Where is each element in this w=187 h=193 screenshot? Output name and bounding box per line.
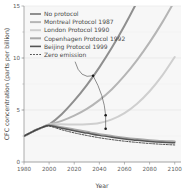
y-tick-label-5: 5 (16, 107, 20, 113)
x-axis-title: Year (94, 182, 109, 189)
legend-label-no-protocol: No protocol (44, 10, 79, 18)
cfc-concentration-line-chart: 1980200020202040206020802100051015 Year … (0, 0, 187, 193)
x-tick-label-1980: 1980 (17, 166, 32, 172)
x-tick-label-2080: 2080 (142, 166, 157, 172)
legend-label-copenhagen-protocol-1992: Copenhagen Protocol 1992 (44, 35, 125, 43)
legend-label-zero-emission: Zero emission (44, 51, 87, 58)
annotation-dot-3 (104, 127, 107, 130)
annotation-dot-2 (104, 114, 107, 117)
y-axis-title: CFC concentration (parts per billion) (3, 28, 11, 140)
x-tick-label-2060: 2060 (117, 166, 132, 172)
legend-label-montreal-protocol-1987: Montreal Protocol 1987 (44, 18, 114, 25)
x-tick-label-2000: 2000 (42, 166, 57, 172)
y-tick-label-10: 10 (13, 55, 21, 61)
x-tick-label-2040: 2040 (92, 166, 107, 172)
chart-figure: 1980200020202040206020802100051015 Year … (0, 0, 187, 193)
y-tick-label-15: 15 (13, 3, 21, 9)
annotation-dot-1 (92, 74, 95, 77)
legend-label-beijing-protocol-1999: Beijing Protocol 1999 (44, 43, 108, 51)
y-tick-label-0: 0 (16, 159, 20, 165)
x-tick-label-2100: 2100 (168, 166, 183, 172)
legend-label-london-protocol-1990: London Protocol 1990 (44, 26, 109, 33)
x-tick-label-2020: 2020 (67, 166, 82, 172)
